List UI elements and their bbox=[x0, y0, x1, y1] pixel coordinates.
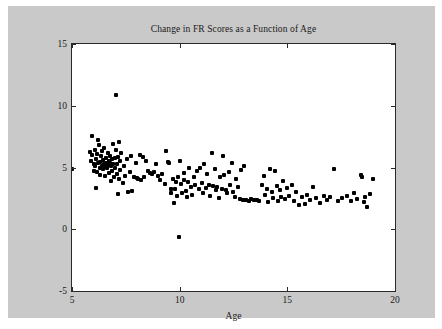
scatter-point bbox=[198, 166, 202, 170]
scatter-point bbox=[236, 185, 240, 189]
scatter-point bbox=[176, 175, 180, 179]
scatter-point bbox=[260, 183, 264, 187]
scatter-point bbox=[297, 203, 301, 207]
scatter-point bbox=[118, 159, 122, 163]
x-tick-mark-top bbox=[72, 44, 73, 48]
scatter-point bbox=[263, 193, 267, 197]
scatter-point bbox=[287, 194, 291, 198]
scatter-point bbox=[228, 183, 232, 187]
plot-axes: -50510155101520 bbox=[71, 43, 396, 292]
scatter-point bbox=[90, 134, 94, 138]
scatter-point bbox=[172, 201, 176, 205]
scatter-point bbox=[98, 173, 102, 177]
scatter-point bbox=[97, 143, 101, 147]
scatter-point bbox=[365, 205, 369, 209]
scatter-point bbox=[184, 189, 188, 193]
scatter-point bbox=[314, 196, 318, 200]
scatter-point bbox=[308, 198, 312, 202]
scatter-point bbox=[210, 151, 214, 155]
scatter-point bbox=[110, 169, 114, 173]
scatter-point bbox=[222, 173, 226, 177]
y-tick-label: 5 bbox=[62, 163, 67, 173]
scatter-point bbox=[178, 159, 182, 163]
scatter-point bbox=[266, 200, 270, 204]
scatter-point bbox=[130, 189, 134, 193]
x-tick-mark bbox=[180, 287, 181, 291]
scatter-point bbox=[100, 149, 104, 153]
scatter-point bbox=[227, 170, 231, 174]
scatter-point bbox=[114, 93, 118, 97]
y-tick-mark-right bbox=[391, 291, 395, 292]
scatter-point bbox=[96, 138, 100, 142]
figure-canvas: Change in FR Scores as a Function of Age… bbox=[8, 6, 435, 318]
scatter-point bbox=[242, 164, 246, 168]
scatter-point bbox=[90, 153, 94, 157]
scatter-point bbox=[158, 178, 162, 182]
scatter-point bbox=[119, 151, 123, 155]
scatter-point bbox=[154, 162, 158, 166]
scatter-point bbox=[215, 185, 219, 189]
scatter-point bbox=[93, 148, 97, 152]
scatter-point bbox=[239, 168, 243, 172]
scatter-point bbox=[129, 154, 133, 158]
y-tick-mark bbox=[72, 168, 76, 169]
scatter-point bbox=[303, 202, 307, 206]
scatter-point bbox=[114, 148, 118, 152]
scatter-point bbox=[113, 166, 117, 170]
scatter-point bbox=[278, 188, 282, 192]
scatter-point bbox=[231, 190, 235, 194]
scatter-point bbox=[167, 161, 171, 165]
scatter-point bbox=[271, 196, 275, 200]
scatter-point bbox=[187, 166, 191, 170]
scatter-point bbox=[179, 182, 183, 186]
scatter-point bbox=[352, 191, 356, 195]
scatter-point bbox=[368, 192, 372, 196]
scatter-point bbox=[142, 175, 146, 179]
scatter-point bbox=[233, 195, 237, 199]
scatter-point bbox=[262, 174, 266, 178]
figure-window: Change in FR Scores as a Function of Age… bbox=[0, 0, 442, 329]
scatter-point bbox=[234, 177, 238, 181]
scatter-point bbox=[116, 192, 120, 196]
scatter-point bbox=[174, 180, 178, 184]
scatter-point bbox=[349, 199, 353, 203]
scatter-point bbox=[94, 186, 98, 190]
scatter-point bbox=[197, 187, 201, 191]
scatter-point bbox=[192, 175, 196, 179]
scatter-point bbox=[177, 235, 181, 239]
scatter-point bbox=[285, 186, 289, 190]
scatter-point bbox=[163, 182, 167, 186]
x-axis-label: Age bbox=[71, 311, 396, 321]
chart-title: Change in FR Scores as a Function of Age bbox=[71, 24, 396, 34]
y-tick-label: 0 bbox=[62, 224, 67, 234]
y-tick-mark bbox=[72, 106, 76, 107]
y-tick-mark-right bbox=[391, 106, 395, 107]
scatter-point bbox=[122, 164, 126, 168]
scatter-point bbox=[214, 188, 218, 192]
scatter-point bbox=[300, 195, 304, 199]
scatter-point bbox=[205, 172, 209, 176]
scatter-point bbox=[102, 146, 106, 150]
y-tick-mark-right bbox=[391, 168, 395, 169]
scatter-point bbox=[221, 154, 225, 158]
x-tick-label: 15 bbox=[283, 295, 293, 305]
y-tick-label: -5 bbox=[59, 286, 67, 296]
x-tick-label: 20 bbox=[390, 295, 400, 305]
y-tick-mark bbox=[72, 291, 76, 292]
scatter-point bbox=[164, 149, 168, 153]
scatter-point bbox=[340, 196, 344, 200]
scatter-point bbox=[201, 191, 205, 195]
scatter-point bbox=[270, 190, 274, 194]
x-tick-label: 10 bbox=[175, 295, 185, 305]
scatter-point bbox=[186, 180, 190, 184]
scatter-point bbox=[273, 169, 277, 173]
scatter-point bbox=[117, 177, 121, 181]
scatter-point bbox=[276, 199, 280, 203]
y-tick-label: 10 bbox=[58, 101, 68, 111]
scatter-point bbox=[292, 199, 296, 203]
scatter-plot-area bbox=[72, 44, 395, 291]
x-tick-mark bbox=[72, 287, 73, 291]
x-tick-mark-top bbox=[287, 44, 288, 48]
scatter-point bbox=[305, 193, 309, 197]
y-tick-label: 15 bbox=[58, 39, 68, 49]
